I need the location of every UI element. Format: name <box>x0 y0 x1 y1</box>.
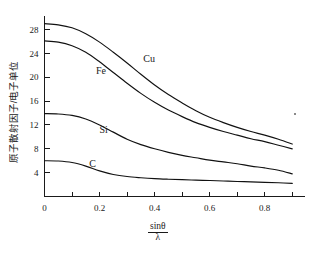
y-axis-tick-label: 8 <box>34 144 39 154</box>
curve-label-c: C <box>89 158 96 169</box>
curve-cu <box>45 24 293 144</box>
x-axis-label-denominator: λ <box>148 233 168 243</box>
plot-axes <box>45 16 305 197</box>
curve-label-cu: Cu <box>143 53 155 64</box>
x-axis-tick-label: 0 <box>42 203 47 213</box>
x-axis-tick-label: 0.4 <box>149 203 161 213</box>
y-axis-tick-label: 20 <box>30 72 40 82</box>
y-axis-tick-label: 24 <box>30 49 40 59</box>
chart-figure: 48121620242800.20.40.60.8 CuFeSiC 原子散射因子… <box>0 0 320 254</box>
y-axis-tick-label: 4 <box>34 168 39 178</box>
curve-label-si: Si <box>100 124 109 135</box>
y-axis-tick-label: 28 <box>30 25 40 35</box>
x-axis-label: sinθ λ <box>148 222 168 243</box>
y-axis-tick-label: 12 <box>30 120 39 130</box>
curve-c <box>45 161 293 184</box>
axis-ticks <box>45 30 293 197</box>
x-axis-tick-label: 0.2 <box>94 203 105 213</box>
scattering-factor-plot: 48121620242800.20.40.60.8 CuFeSiC <box>0 0 320 254</box>
curve-label-fe: Fe <box>96 65 107 76</box>
y-axis-label: 原子散射因子/电子单位 <box>6 48 20 176</box>
scan-artifact-speck <box>294 113 296 115</box>
curve-labels: CuFeSiC <box>89 53 155 169</box>
data-curves <box>45 24 293 184</box>
x-axis-tick-label: 0.6 <box>204 203 216 213</box>
y-axis-tick-label: 16 <box>30 96 40 106</box>
x-axis-tick-label: 0.8 <box>259 203 271 213</box>
